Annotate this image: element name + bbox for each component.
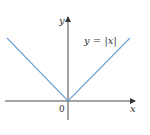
x-axis-label: x: [130, 103, 136, 114]
function-label: y = |x|: [83, 35, 117, 47]
abs-value-curve: [7, 38, 130, 101]
y-axis-label: y: [58, 15, 65, 26]
origin-label: 0: [59, 104, 65, 114]
abs-value-graph: y x 0 y = |x|: [0, 0, 150, 135]
